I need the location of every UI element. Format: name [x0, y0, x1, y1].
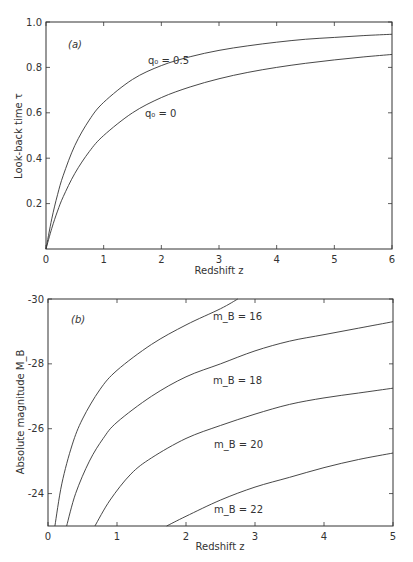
x-tick-label: 1 — [100, 254, 106, 265]
x-tick-label: 3 — [216, 254, 222, 265]
x-tick-label: 6 — [389, 254, 395, 265]
y-tick-label: 0.4 — [26, 153, 42, 164]
x-tick-label: 5 — [331, 254, 337, 265]
label-mb-18: m_B = 18 — [213, 375, 262, 387]
x-tick-label: 4 — [273, 254, 279, 265]
panel-b-xlabel: Redshift z — [195, 541, 244, 552]
y-tick-label: 1.0 — [26, 17, 42, 28]
x-tick-label: 3 — [252, 531, 258, 542]
y-tick-label: 0.2 — [26, 198, 42, 209]
x-tick-label: 4 — [321, 531, 327, 542]
panel-a-ticks: 01234560.20.40.60.81.0 — [26, 17, 395, 266]
panel-a-frame — [46, 22, 392, 249]
panel-a: 01234560.20.40.60.81.0 (a) q₀ = 0.5 q₀ =… — [13, 17, 395, 277]
panel-b: 012345-24-26-28-30 (b) m_B = 16 m_B = 18… — [15, 294, 396, 553]
y-tick-label: -30 — [28, 294, 44, 305]
panel-a-xlabel: Redshift z — [194, 265, 243, 276]
panel-a-ylabel: Look-back time τ — [13, 93, 24, 179]
panel-a-tag: (a) — [68, 39, 82, 50]
x-tick-label: 2 — [183, 531, 189, 542]
x-tick-label: 1 — [114, 531, 120, 542]
curve-mB=16 — [55, 299, 238, 526]
y-tick-label: 0.8 — [26, 62, 42, 73]
label-mb-20: m_B = 20 — [214, 439, 263, 451]
label-mb-16: m_B = 16 — [213, 311, 262, 323]
x-tick-label: 0 — [43, 254, 49, 265]
label-mb-22: m_B = 22 — [214, 504, 263, 516]
panel-b-frame — [48, 299, 393, 526]
panel-b-curves — [55, 299, 393, 526]
x-tick-label: 2 — [158, 254, 164, 265]
label-q0-0: q₀ = 0 — [145, 108, 176, 119]
x-tick-label: 0 — [45, 531, 51, 542]
curve-mB=18 — [67, 322, 393, 526]
y-tick-label: -28 — [28, 358, 44, 369]
x-tick-label: 5 — [390, 531, 396, 542]
curve-q0=0 — [46, 54, 392, 249]
y-tick-label: 0.6 — [26, 107, 42, 118]
panel-b-ylabel: Absolute magnitude M_B — [15, 350, 27, 475]
panel-a-curves — [46, 34, 392, 249]
label-q0-0.5: q₀ = 0.5 — [148, 55, 189, 66]
y-tick-label: -24 — [28, 488, 44, 499]
panel-b-tag: (b) — [71, 314, 85, 325]
y-tick-label: -26 — [28, 423, 44, 434]
curve-mB=22 — [167, 453, 393, 526]
figure: 01234560.20.40.60.81.0 (a) q₀ = 0.5 q₀ =… — [0, 0, 413, 562]
